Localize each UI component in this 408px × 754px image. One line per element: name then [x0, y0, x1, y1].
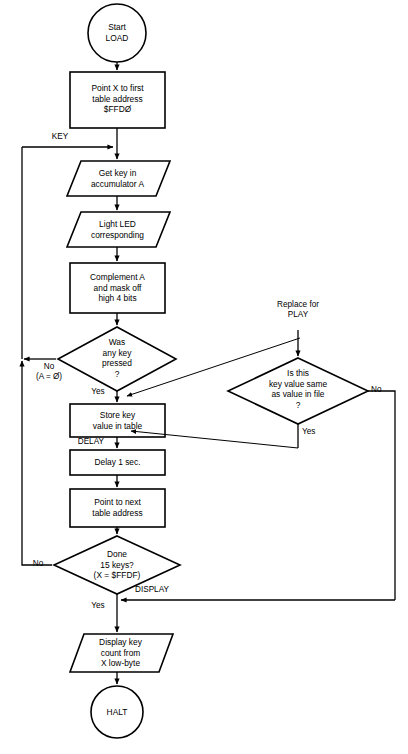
edge-label-yes-value-same: Yes — [302, 427, 326, 437]
annotation-replace-for-play: Replace for PLAY — [258, 300, 338, 320]
node-point-next — [70, 489, 165, 527]
edge-label-display: DISPLAY — [135, 585, 197, 595]
node-halt — [91, 686, 143, 738]
node-complement-a — [70, 263, 165, 313]
node-store-key — [70, 404, 165, 437]
edge-value-same-yes-to-delay — [131, 431, 298, 448]
flowchart-canvas: Start LOAD Point X to first table addres… — [0, 0, 408, 754]
node-delay-1s — [70, 450, 165, 475]
edge-done-no — [22, 372, 52, 565]
node-value-same — [228, 358, 368, 424]
edge-label-no-value-same: No — [371, 385, 393, 395]
edge-label-no-done: No — [26, 559, 50, 569]
node-key-pressed — [58, 327, 176, 391]
edge-label-yes-done: Yes — [86, 601, 110, 611]
edge-value-same-no — [368, 391, 395, 600]
edge-label-key: KEY — [42, 132, 78, 142]
node-point-x-first — [70, 72, 165, 128]
edge-label-delay: DELAY — [60, 437, 104, 447]
edge-label-yes-key-pressed: Yes — [86, 387, 110, 397]
node-get-key — [67, 161, 170, 196]
node-light-led — [67, 212, 170, 247]
edge-label-no-a-zero: No (A = Ø) — [26, 362, 72, 382]
node-display-key-count — [70, 634, 173, 672]
node-start — [88, 4, 146, 62]
